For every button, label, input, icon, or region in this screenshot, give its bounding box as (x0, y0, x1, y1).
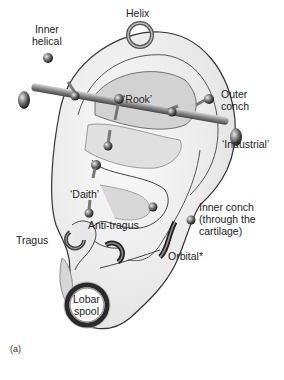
label-lobar-spool-line2: spool (73, 305, 100, 317)
figure-caption: (a) (10, 344, 21, 354)
label-helix: Helix (126, 7, 149, 19)
label-inner-conch-line2: (through the (199, 213, 256, 225)
label-lobar-spool-line1: Lobar (73, 293, 100, 305)
label-outer-conch-line2: conch (221, 100, 249, 112)
label-daith: ‘Daith’ (70, 188, 99, 200)
label-industrial: ‘Industrial’ (222, 138, 269, 150)
label-outer-conch-line1: Outer (221, 88, 249, 100)
label-tragus: Tragus (16, 234, 48, 246)
ear-piercing-diagram: Inner helical Helix Outer conch ‘Rook’ ‘… (0, 0, 284, 380)
label-inner-helical: Inner helical (32, 23, 62, 47)
label-inner-conch-line1: Inner conch (199, 201, 256, 213)
label-lobar-spool: Lobar spool (73, 293, 100, 317)
ear-illustration (0, 0, 284, 380)
label-inner-conch: Inner conch (through the cartilage) (199, 201, 256, 237)
label-inner-helical-line1: Inner (32, 23, 62, 35)
label-rook: ‘Rook’ (123, 93, 152, 105)
label-inner-conch-line3: cartilage) (199, 225, 256, 237)
label-anti-tragus: Anti-tragus (88, 219, 139, 231)
label-inner-helical-line2: helical (32, 35, 62, 47)
label-outer-conch: Outer conch (221, 88, 249, 112)
label-orbital: Orbital* (168, 250, 203, 262)
